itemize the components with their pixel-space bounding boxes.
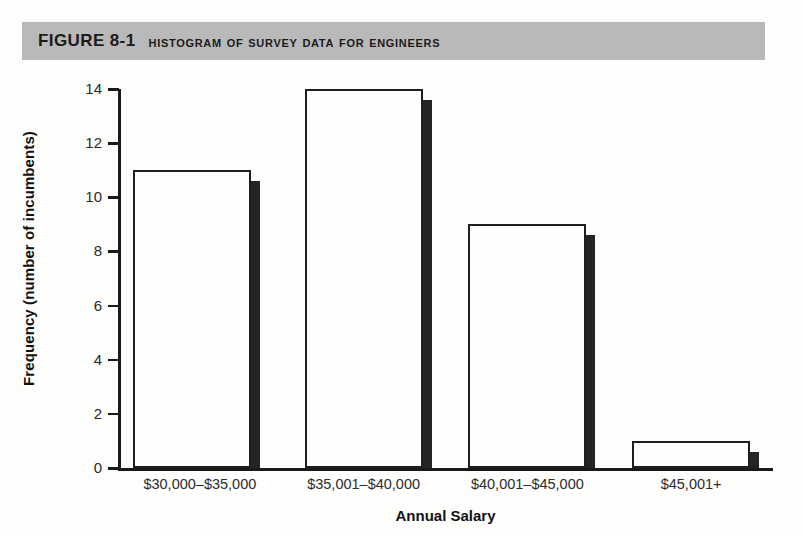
y-axis-title: Frequency (number of incumbents) bbox=[20, 94, 37, 424]
y-axis-tick-label: 4 bbox=[70, 351, 102, 368]
y-axis-tick bbox=[108, 88, 119, 91]
y-axis-tick-label: 12 bbox=[70, 134, 102, 151]
y-axis-tick-label: 0 bbox=[70, 459, 102, 476]
bar bbox=[468, 224, 586, 468]
y-axis-tick bbox=[108, 467, 119, 470]
y-axis-tick bbox=[108, 142, 119, 145]
bar bbox=[305, 89, 423, 468]
chart-plot-area: Frequency (number of incumbents) 0246810… bbox=[0, 60, 803, 536]
figure-caption: Histogram of Survey Data for Engineers bbox=[149, 33, 441, 50]
y-axis-tick-label: 6 bbox=[70, 297, 102, 314]
figure-number: FIGURE 8-1 bbox=[38, 31, 136, 51]
x-axis-tick-label: $35,001–$40,000 bbox=[282, 476, 446, 492]
y-axis-tick bbox=[108, 250, 119, 253]
figure-page: FIGURE 8-1 Histogram of Survey Data for … bbox=[0, 0, 803, 536]
y-axis-tick-label: 10 bbox=[70, 188, 102, 205]
x-axis-tick-label: $45,001+ bbox=[609, 476, 773, 492]
y-axis-tick bbox=[108, 413, 119, 416]
bar bbox=[133, 170, 251, 468]
x-axis-line bbox=[118, 468, 773, 471]
figure-title-band: FIGURE 8-1 Histogram of Survey Data for … bbox=[22, 22, 765, 60]
bar bbox=[632, 441, 750, 468]
y-axis-tick bbox=[108, 305, 119, 308]
y-axis-tick-label: 8 bbox=[70, 242, 102, 259]
y-axis-tick bbox=[108, 359, 119, 362]
y-axis-tick-label: 14 bbox=[70, 80, 102, 97]
y-axis-tick bbox=[108, 196, 119, 199]
x-axis-tick-label: $40,001–$45,000 bbox=[446, 476, 610, 492]
x-axis-tick-label: $30,000–$35,000 bbox=[118, 476, 282, 492]
x-axis-title: Annual Salary bbox=[118, 507, 773, 524]
y-axis-tick-label: 2 bbox=[70, 405, 102, 422]
